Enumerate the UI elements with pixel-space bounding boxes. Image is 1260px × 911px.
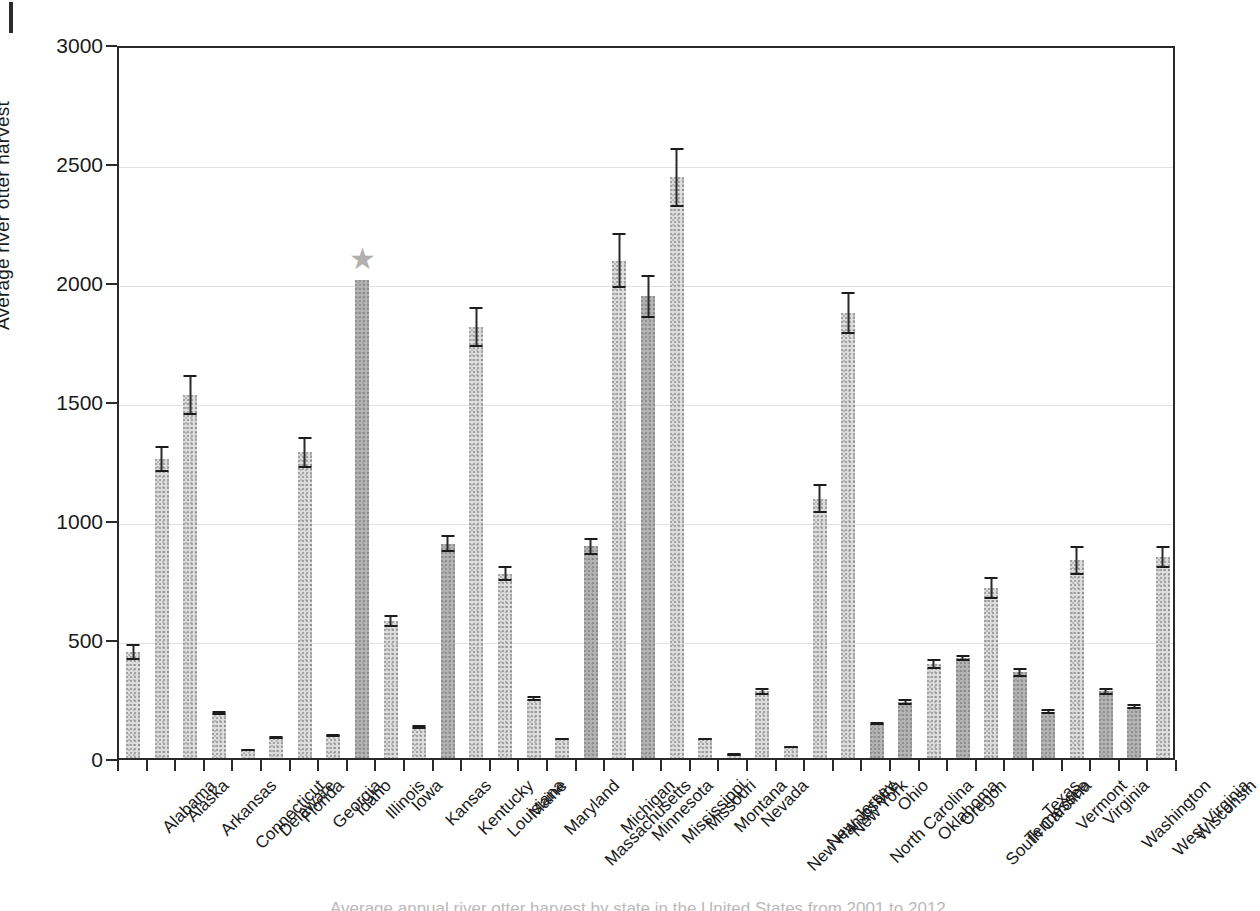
bar	[355, 280, 369, 758]
bar-group-texas	[1013, 44, 1027, 758]
x-tick-mark	[1118, 760, 1120, 771]
x-tick-mark	[174, 760, 176, 771]
bar	[612, 261, 626, 758]
error-bar	[1156, 546, 1169, 567]
error-bar	[1070, 546, 1083, 575]
error-bar	[184, 375, 197, 415]
bar	[584, 546, 598, 758]
error-bar	[241, 749, 254, 751]
bar-group-massachusetts	[555, 44, 569, 758]
star-marker-icon: ★	[349, 244, 376, 274]
bar-group-delaware	[241, 44, 255, 758]
error-bar	[899, 699, 912, 705]
x-tick-mark	[860, 760, 862, 771]
error-bar	[1042, 709, 1055, 713]
bar-group-connecticut	[212, 44, 226, 758]
x-tick-mark	[832, 760, 834, 771]
error-bar	[327, 734, 340, 737]
bar	[870, 724, 884, 759]
x-tick-mark	[432, 760, 434, 771]
x-tick-mark	[603, 760, 605, 771]
bar-group-alaska	[155, 44, 169, 758]
bar-group-minnesota	[612, 44, 626, 758]
bar	[1013, 672, 1027, 758]
bar-group-iowa	[384, 44, 398, 758]
x-tick-mark	[517, 760, 519, 771]
bar	[927, 664, 941, 758]
bar	[126, 652, 140, 758]
bar-group-washington	[1099, 44, 1113, 758]
bar	[641, 296, 655, 758]
error-bar	[985, 577, 998, 598]
error-bar	[499, 566, 512, 580]
x-tick-mark	[1089, 760, 1091, 771]
bar	[498, 574, 512, 758]
bar-group-montana	[698, 44, 712, 758]
x-axis-ticks	[117, 760, 1175, 761]
bar	[1156, 557, 1170, 758]
x-tick-mark	[1146, 760, 1148, 771]
x-tick-mark	[489, 760, 491, 771]
x-tick-mark	[403, 760, 405, 771]
y-tick-mark	[106, 759, 117, 761]
error-bar	[127, 644, 140, 661]
y-tick-label: 3000	[56, 34, 103, 58]
bar-group-arkansas	[183, 44, 197, 758]
bar	[555, 739, 569, 758]
x-tick-mark	[460, 760, 462, 771]
bar-group-nevada	[727, 44, 741, 758]
error-bar	[927, 659, 940, 669]
x-tick-mark	[632, 760, 634, 771]
bar-group-georgia	[298, 44, 312, 758]
y-axis-ticks: 050010001500200025003000	[0, 0, 117, 762]
error-bar	[813, 484, 826, 513]
bar-group-illinois: ★	[355, 44, 369, 758]
x-tick-mark	[1003, 760, 1005, 771]
error-bar	[556, 738, 569, 741]
bar	[412, 727, 426, 758]
bar	[1099, 691, 1113, 758]
bar-group-tennessee	[984, 44, 998, 758]
x-tick-mark	[1175, 760, 1177, 771]
x-tick-mark	[1032, 760, 1034, 771]
x-tick-mark	[374, 760, 376, 771]
error-bar	[270, 736, 283, 739]
bar	[241, 750, 255, 758]
x-tick-mark	[146, 760, 148, 771]
y-tick-mark	[106, 45, 117, 47]
x-tick-mark	[746, 760, 748, 771]
figure-caption: Average annual river otter harvest by st…	[330, 899, 1210, 911]
bar	[1070, 560, 1084, 758]
bar	[298, 452, 312, 758]
bar	[527, 699, 541, 759]
x-tick-mark	[946, 760, 948, 771]
bar	[269, 738, 283, 758]
error-bar	[870, 722, 883, 726]
bar-group-new-jersey	[784, 44, 798, 758]
bar	[384, 621, 398, 758]
x-tick-mark	[546, 760, 548, 771]
y-tick-label: 0	[91, 748, 103, 772]
bar	[1041, 712, 1055, 758]
x-tick-mark	[231, 760, 233, 771]
bar-group-florida	[269, 44, 283, 758]
error-bar	[756, 688, 769, 696]
bar-group-new-york	[813, 44, 827, 758]
bar-group-south-carolina	[956, 44, 970, 758]
bar-group-kentucky	[441, 44, 455, 758]
error-bar	[1013, 668, 1026, 677]
y-axis-title: Average river otter harvest	[0, 30, 14, 330]
x-tick-mark	[260, 760, 262, 771]
bar-group-kansas	[412, 44, 426, 758]
bar	[441, 544, 455, 758]
bar-group-wisconsin	[1156, 44, 1170, 758]
bar	[956, 658, 970, 758]
bar	[326, 735, 340, 758]
y-tick-label: 500	[68, 629, 103, 653]
bar-group-maryland	[527, 44, 541, 758]
bar	[755, 691, 769, 758]
error-bar	[213, 711, 226, 715]
error-bar	[413, 725, 426, 729]
x-tick-mark	[717, 760, 719, 771]
bar-group-maine	[498, 44, 512, 758]
